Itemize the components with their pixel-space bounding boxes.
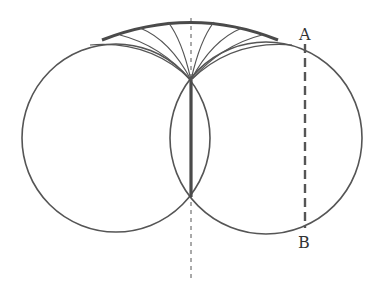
two-circles-diagram: A B — [0, 0, 383, 288]
label-a: A — [298, 25, 311, 44]
label-b: B — [298, 233, 310, 252]
right-circle — [170, 42, 362, 234]
